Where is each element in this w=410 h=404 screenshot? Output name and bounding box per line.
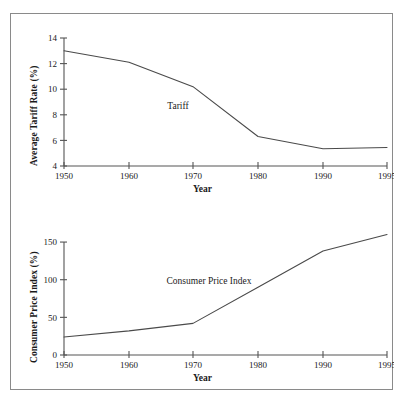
series-annotation: Tariff (167, 101, 189, 111)
y-tick-label: 50 (48, 313, 58, 323)
x-tick-label: 1960 (120, 360, 139, 370)
series-annotation: Consumer Price Index (167, 276, 252, 286)
y-tick-label: 10 (48, 84, 58, 94)
x-tick-label: 1980 (249, 360, 268, 370)
x-tick-label: 1950 (55, 171, 74, 181)
x-tick-label: 1970 (184, 171, 203, 181)
x-tick-label: 1950 (55, 360, 74, 370)
y-tick-label: 8 (53, 110, 58, 120)
plot-area-cpi: 050100150195019601970198019901995Consume… (11, 203, 394, 391)
x-tick-label: 1990 (314, 171, 333, 181)
chart-average-tariff-rate: Average Tariff Rate (%) Year 46810121419… (11, 14, 394, 202)
x-tick-label: 1995 (378, 171, 394, 181)
data-series-line (64, 51, 387, 149)
y-tick-label: 12 (48, 59, 57, 69)
chart-consumer-price-index: Consumer Price Index (%) Year 0501001501… (11, 203, 394, 391)
y-tick-label: 150 (44, 237, 58, 247)
y-tick-label: 0 (53, 350, 58, 360)
x-tick-label: 1995 (378, 360, 394, 370)
figure-frame: Average Tariff Rate (%) Year 46810121419… (10, 13, 393, 390)
x-tick-label: 1960 (120, 171, 139, 181)
y-tick-label: 14 (48, 33, 58, 43)
x-tick-label: 1990 (314, 360, 333, 370)
y-tick-label: 6 (53, 136, 58, 146)
x-tick-label: 1980 (249, 171, 268, 181)
plot-area-tariff: 468101214195019601970198019901995Tariff (11, 14, 394, 202)
y-tick-label: 100 (44, 275, 58, 285)
x-tick-label: 1970 (184, 360, 203, 370)
y-tick-label: 4 (53, 161, 58, 171)
